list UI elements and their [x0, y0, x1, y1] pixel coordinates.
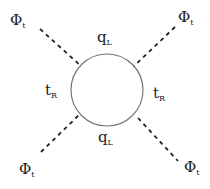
phi-symbol: Φ [184, 158, 196, 176]
q-label-bottom: qL [98, 130, 113, 147]
phi-label-bottom-right: Φt [184, 160, 200, 177]
scalar-line-bottom-left [41, 114, 80, 152]
phi-subscript: t [31, 170, 34, 179]
phi-label-bottom-left: Φt [19, 162, 35, 179]
q-subscript: L [108, 138, 113, 147]
scalar-line-bottom-right [138, 118, 178, 161]
fermion-loop [71, 54, 143, 126]
phi-label-top-left: Φt [10, 13, 26, 30]
phi-symbol: Φ [10, 11, 22, 29]
scalar-line-top-left [40, 29, 81, 66]
phi-subscript: t [190, 18, 193, 27]
t-subscript: R [51, 91, 57, 100]
scalar-line-top-right [134, 27, 175, 66]
t-label-left: tR [45, 83, 57, 100]
q-label-top: qL [97, 30, 112, 47]
phi-symbol: Φ [19, 160, 31, 178]
phi-label-top-right: Φt [178, 10, 194, 27]
q-subscript: L [107, 38, 112, 47]
phi-subscript: t [196, 168, 199, 177]
q-symbol: q [97, 28, 107, 46]
phi-subscript: t [22, 21, 25, 30]
t-label-right: tR [153, 86, 165, 103]
q-symbol: q [98, 128, 108, 146]
t-subscript: R [159, 94, 165, 103]
phi-symbol: Φ [178, 8, 190, 26]
